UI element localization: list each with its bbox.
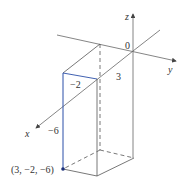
x-tick-label: 3 [116, 71, 121, 82]
box-edge [97, 158, 134, 176]
y-axis-label: y [167, 64, 173, 75]
box-edge [63, 44, 100, 73]
x-axis-label: x [24, 128, 30, 139]
y-axis [57, 35, 176, 61]
box-edge-hidden [100, 150, 134, 158]
box-edge [63, 169, 97, 176]
z-axis-label: z [124, 11, 129, 22]
y-tick-label: −2 [70, 79, 81, 90]
box-edge-hidden [63, 150, 100, 169]
x-axis [36, 51, 133, 128]
point-label: (3, −2, −6) [11, 164, 54, 176]
x-axis-back [133, 30, 160, 51]
origin-label: 0 [125, 40, 130, 51]
z-tick-label: −6 [48, 125, 59, 136]
point-marker [61, 167, 65, 171]
coordinate-diagram: z y x 0 3 −2 −6 (3, −2, −6) [0, 0, 182, 190]
